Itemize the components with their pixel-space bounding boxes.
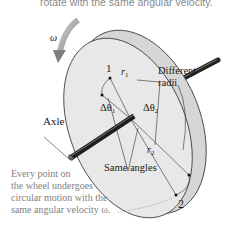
- different-radii-label: Different radii: [158, 65, 196, 89]
- point-1-end: [101, 94, 104, 97]
- delta-theta-1-subscript: 1: [112, 107, 116, 115]
- delta-theta-2-symbol: Δθ: [143, 102, 155, 113]
- r2-subscript: 2: [151, 149, 155, 157]
- note-line-1: Every point on: [11, 168, 110, 180]
- note-line-4: same angular velocity ω.: [11, 204, 110, 216]
- point-1-start: [109, 77, 112, 80]
- point-1-label: 1: [106, 63, 112, 74]
- delta-theta-2-label: Δθ2: [143, 103, 158, 115]
- point-2-start: [188, 174, 191, 177]
- point-2-label: 2: [178, 198, 184, 210]
- explanation-note: Every point on the wheel undergoes circu…: [11, 168, 110, 216]
- delta-theta-2-subscript: 2: [155, 107, 159, 115]
- axle-label: Axle: [43, 116, 64, 127]
- r1-subscript: 1: [125, 71, 129, 79]
- delta-theta-1-label: Δθ1: [100, 103, 115, 115]
- note-line-2: the wheel undergoes: [11, 180, 110, 192]
- omega-label: ω: [50, 33, 57, 43]
- delta-theta-1-symbol: Δθ: [100, 102, 112, 113]
- r2-label: r2: [147, 145, 154, 157]
- note-line-3: circular motion with the: [11, 192, 110, 204]
- different-radii-line2: radii: [158, 77, 196, 89]
- different-radii-line1: Different: [158, 65, 196, 77]
- same-angles-label: Same angles: [104, 163, 157, 174]
- r1-label: r1: [121, 67, 128, 79]
